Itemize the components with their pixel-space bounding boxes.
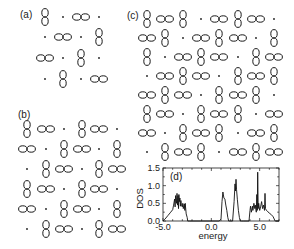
horizontal-orbital-icon [266,149,283,155]
horizontal-orbital-icon [230,35,247,41]
horizontal-orbital-icon [139,92,156,98]
horizontal-orbital-icon [109,166,126,172]
panel-a-orbital-lattice [37,9,108,88]
horizontal-orbital-icon [37,55,54,61]
panel-d-dos-chart: -5.00.05.00.00.51.01.5 (d) energy DOS [134,163,279,241]
empty-site-dot [164,56,166,58]
vertical-orbital-icon [162,30,168,47]
horizontal-orbital-icon [248,130,265,136]
vertical-orbital-icon [271,125,277,142]
y-axis-label: DOS [134,188,145,209]
vertical-orbital-icon [79,181,85,198]
vertical-orbital-icon [96,161,102,178]
vertical-orbital-icon [114,201,120,218]
horizontal-orbital-icon [74,206,91,212]
horizontal-orbital-icon [211,54,228,60]
horizontal-orbital-icon [230,149,247,155]
empty-site-dot [98,148,100,150]
empty-site-dot [98,16,100,18]
horizontal-orbital-icon [19,206,36,212]
empty-site-dot [200,18,202,20]
panel-c-label: (c) [127,10,139,21]
vertical-orbital-icon [198,49,204,66]
vertical-orbital-icon [162,144,168,161]
vertical-orbital-icon [198,144,204,161]
panel-b-orbital-lattice [19,121,126,238]
vertical-orbital-icon [162,87,168,104]
horizontal-orbital-icon [38,126,55,132]
horizontal-orbital-icon [248,73,265,79]
horizontal-orbital-icon [193,130,210,136]
empty-site-dot [80,36,82,38]
horizontal-orbital-icon [139,130,156,136]
vertical-orbital-icon [253,87,259,104]
empty-site-dot [116,188,118,190]
empty-site-dot [218,75,220,77]
x-tick-label: 5.0 [253,222,266,232]
panel-b-label: (b) [18,109,30,120]
vertical-orbital-icon [42,9,48,26]
empty-site-dot [255,37,257,39]
vertical-orbital-icon [216,30,222,47]
empty-site-dot [200,94,202,96]
horizontal-orbital-icon [266,111,283,117]
empty-site-dot [273,18,275,20]
panel-d-label: (d) [170,171,182,182]
empty-site-dot [255,113,257,115]
vertical-orbital-icon [96,221,102,238]
vertical-orbital-icon [216,125,222,142]
empty-site-dot [45,148,47,150]
horizontal-orbital-icon [211,111,228,117]
panel-a-label: (a) [20,9,32,20]
empty-site-dot [98,208,100,210]
empty-site-dot [80,78,82,80]
empty-site-dot [45,208,47,210]
vertical-orbital-icon [78,50,84,67]
vertical-orbital-icon [79,121,85,138]
horizontal-orbital-icon [157,16,174,22]
horizontal-orbital-icon [248,16,265,22]
y-tick-label: 0.0 [147,216,160,226]
vertical-orbital-icon [253,144,259,161]
horizontal-orbital-icon [193,35,210,41]
horizontal-orbital-icon [74,146,91,152]
vertical-orbital-icon [271,30,277,47]
vertical-orbital-icon [24,181,30,198]
vertical-orbital-icon [235,11,241,28]
empty-site-dot [237,132,239,134]
horizontal-orbital-icon [91,126,108,132]
horizontal-orbital-icon [73,14,90,20]
vertical-orbital-icon [114,141,120,158]
vertical-orbital-icon [61,141,67,158]
vertical-orbital-icon [198,106,204,123]
vertical-orbital-icon [61,201,67,218]
empty-site-dot [182,37,184,39]
vertical-orbital-icon [235,106,241,123]
vertical-orbital-icon [253,49,259,66]
vertical-orbital-icon [43,161,49,178]
horizontal-orbital-icon [38,186,55,192]
horizontal-orbital-icon [19,146,36,152]
empty-site-dot [116,128,118,130]
horizontal-orbital-icon [175,92,192,98]
vertical-orbital-icon [60,71,66,88]
y-tick-label: 1.5 [147,163,160,173]
empty-site-dot [182,113,184,115]
horizontal-orbital-icon [139,35,156,41]
horizontal-orbital-icon [91,76,108,82]
vertical-orbital-icon [180,11,186,28]
horizontal-orbital-icon [266,54,283,60]
empty-site-dot [63,128,65,130]
x-axis-label: energy [198,230,227,241]
horizontal-orbital-icon [109,226,126,232]
empty-site-dot [63,188,65,190]
y-tick-label: 0.5 [147,198,160,208]
empty-site-dot [98,57,100,59]
empty-site-dot [164,132,166,134]
horizontal-orbital-icon [175,54,192,60]
vertical-orbital-icon [43,221,49,238]
empty-site-dot [44,36,46,38]
panel-c-orbital-lattice [139,11,283,161]
empty-site-dot [218,151,220,153]
empty-site-dot [44,78,46,80]
